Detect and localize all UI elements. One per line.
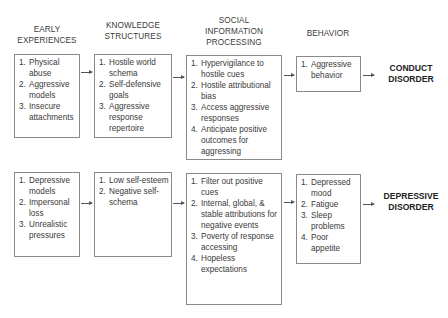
header-line: INFORMATION [186,26,282,37]
list-item: 2.Internal, global, & stable attribution… [191,198,279,231]
list-item: 4.Anticipate positive outcomes for aggre… [191,124,279,157]
list-item: 1.Aggressive behavior [301,59,358,81]
conduct-social-information-processing-box: 1.Hypervigilance to hostile cues 2.Hosti… [186,55,282,160]
header-social-information-processing: SOCIAL INFORMATION PROCESSING [186,15,282,48]
arrow-right [173,203,184,204]
depressive-disorder-label: DEPRESSIVE DISORDER [374,191,448,213]
list-item: 2.Negative self-schema [99,186,169,208]
header-line: SOCIAL [186,15,282,26]
list-item: 1.Physical abuse [19,57,77,79]
depressive-behavior-box: 1.Depressed mood 2.Fatigue 3.Sleep probl… [296,174,361,264]
list-item: 4.Hopeless expectations [191,253,279,275]
list-item: 1.Low self-esteem [99,175,169,186]
list-item: 1.Hostile world schema [99,57,169,79]
arrow-right [284,75,294,76]
depressive-social-information-processing-box: 1.Filter out positive cues 2.Internal, g… [186,173,282,305]
list-item: 1.Depressed mood [301,177,358,199]
list-item: 1.Hypervigilance to hostile cues [191,58,279,80]
list-item: 2.Fatigue [301,199,358,210]
header-line: PROCESSING [186,37,282,48]
depressive-knowledge-structures-box: 1.Low self-esteem 2.Negative self-schema [94,172,172,257]
depressive-early-experiences-box: 1.Depressive models 2.Impersonal loss 3.… [14,172,80,257]
outcome-line: CONDUCT [376,63,446,74]
outcome-line: DISORDER [376,74,446,85]
outcome-line: DEPRESSIVE [374,191,448,202]
header-line: BEHAVIOR [294,28,362,39]
arrow-right [363,75,374,76]
list-item: 1.Filter out positive cues [191,176,279,198]
list-item: 3.Insecure attachments [19,101,77,123]
list-item: 2.Hostile attributional bias [191,80,279,102]
conduct-knowledge-structures-box: 1.Hostile world schema 2.Self-defensive … [94,54,172,138]
arrow-right [363,204,374,205]
list-item: 3.Sleep problems [301,210,358,232]
arrow-right [81,203,92,204]
list-item: 4.Poor appetite [301,232,358,254]
conduct-behavior-box: 1.Aggressive behavior [296,56,361,92]
conduct-early-experiences-box: 1.Physical abuse 2.Aggressive models 3.I… [14,54,80,138]
list-item: 3.Poverty of response accessing [191,231,279,253]
header-line: EXPERIENCES [8,35,86,46]
list-item: 3.Unrealistic pressures [19,219,77,241]
outcome-line: DISORDER [374,202,448,213]
list-item: 3.Aggressive response repertoire [99,101,169,134]
conduct-disorder-label: CONDUCT DISORDER [376,63,446,85]
list-item: 3.Access aggressive responses [191,102,279,124]
list-item: 2.Self-defensive goals [99,79,169,101]
header-line: STRUCTURES [92,31,174,42]
arrow-right [284,202,294,203]
list-item: 1.Depressive models [19,175,77,197]
list-item: 2.Impersonal loss [19,197,77,219]
header-early-experiences: EARLY EXPERIENCES [8,24,86,46]
arrow-right [173,77,184,78]
header-line: EARLY [8,24,86,35]
header-behavior: BEHAVIOR [294,28,362,39]
header-line: KNOWLEDGE [92,20,174,31]
arrow-right [81,72,92,73]
header-knowledge-structures: KNOWLEDGE STRUCTURES [92,20,174,42]
list-item: 2.Aggressive models [19,79,77,101]
